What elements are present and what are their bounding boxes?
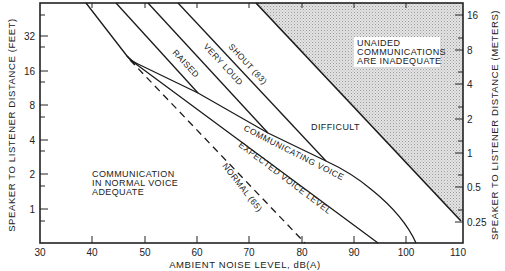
svg-text:4: 4 <box>467 79 473 90</box>
x-tick-labels: 30 40 50 60 70 80 90 100 110 <box>34 247 466 258</box>
svg-text:1: 1 <box>467 148 473 159</box>
svg-text:50: 50 <box>139 247 151 258</box>
svg-text:90: 90 <box>348 247 360 258</box>
y-axis-left-title: SPEAKER TO LISTENER DISTANCE (FEET) <box>6 18 17 232</box>
svg-text:1: 1 <box>29 204 35 215</box>
svg-text:32: 32 <box>24 31 36 42</box>
y-left-tick-labels: 32 16 8 4 2 1 <box>24 31 36 215</box>
svg-text:8: 8 <box>467 45 473 56</box>
normal-voice-label: NORMAL (65) <box>220 161 264 214</box>
svg-text:16: 16 <box>24 66 36 77</box>
svg-text:ADEQUATE: ADEQUATE <box>92 187 144 197</box>
y-axis-right-title: SPEAKER TO LISTENER DISTANCE (METERS) <box>489 10 500 240</box>
svg-text:16: 16 <box>467 10 479 21</box>
svg-text:2: 2 <box>29 169 35 180</box>
svg-text:ARE INADEQUATE: ARE INADEQUATE <box>357 56 441 66</box>
y-axis-left-ticks <box>40 15 48 221</box>
normal-voice-line <box>130 60 305 243</box>
svg-text:80: 80 <box>296 247 308 258</box>
svg-text:100: 100 <box>398 247 415 258</box>
difficult-region-label: DIFFICULT <box>311 122 360 132</box>
svg-text:0.5: 0.5 <box>467 182 481 193</box>
svg-text:40: 40 <box>86 247 98 258</box>
svg-text:110: 110 <box>450 247 466 258</box>
raised-label: RAISED <box>171 48 202 80</box>
svg-text:4: 4 <box>29 135 35 146</box>
normal-voice-region-label: COMMUNICATION IN NORMAL VOICE ADEQUATE <box>92 169 178 197</box>
y-right-tick-labels: 16 8 4 2 1 0.5 0.25 <box>467 10 487 228</box>
x-axis-title: AMBIENT NOISE LEVEL, dB(A) <box>169 259 321 270</box>
svg-text:60: 60 <box>191 247 203 258</box>
chart-canvas: 30 40 50 60 70 80 90 100 110 32 16 8 4 2… <box>0 0 505 271</box>
svg-text:0.25: 0.25 <box>467 217 487 228</box>
svg-text:2: 2 <box>467 114 473 125</box>
svg-text:70: 70 <box>243 247 255 258</box>
svg-text:30: 30 <box>34 247 46 258</box>
svg-text:8: 8 <box>29 100 35 111</box>
